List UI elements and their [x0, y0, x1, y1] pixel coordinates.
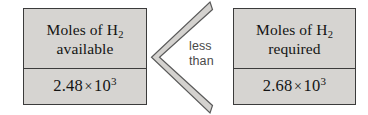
box-left-label-subscript: 2 [118, 29, 123, 40]
box-left-value-cell: 2.48×103 [24, 69, 146, 104]
box-left-label-text: Moles of H [47, 21, 119, 38]
box-right-value-exponent: 3 [321, 75, 327, 87]
box-right-value-times-sign: × [292, 79, 303, 94]
comparison-box-right: Moles of H2 required 2.68×103 [233, 8, 356, 105]
box-right-value-base: 10 [304, 76, 321, 95]
box-left-value: 2.48×103 [53, 77, 116, 96]
box-right-label-line2: required [268, 39, 320, 58]
box-left-value-exponent: 3 [111, 75, 117, 87]
box-left-label-line2: available [57, 39, 114, 58]
box-right-value-cell: 2.68×103 [234, 69, 355, 104]
relation-label-line2: than [189, 54, 231, 69]
box-right-label-cell: Moles of H2 required [234, 9, 355, 69]
box-left-value-mantissa: 2.48 [53, 76, 83, 95]
box-right-value: 2.68×103 [263, 77, 326, 96]
relation-label: less than [189, 39, 231, 69]
comparison-box-left: Moles of H2 available 2.48×103 [23, 8, 147, 105]
box-left-value-base: 10 [94, 76, 111, 95]
box-right-label-text: Moles of H [256, 21, 328, 38]
box-right-label-subscript: 2 [328, 29, 333, 40]
comparison-diagram: Moles of H2 available 2.48×103 less than… [0, 0, 368, 115]
box-right-label-line1: Moles of H2 [256, 20, 333, 39]
box-right-value-mantissa: 2.68 [263, 76, 293, 95]
box-left-value-times-sign: × [83, 79, 94, 94]
box-left-label-cell: Moles of H2 available [24, 9, 146, 69]
relation-label-line1: less [189, 39, 231, 54]
box-left-label-line1: Moles of H2 [47, 20, 124, 39]
